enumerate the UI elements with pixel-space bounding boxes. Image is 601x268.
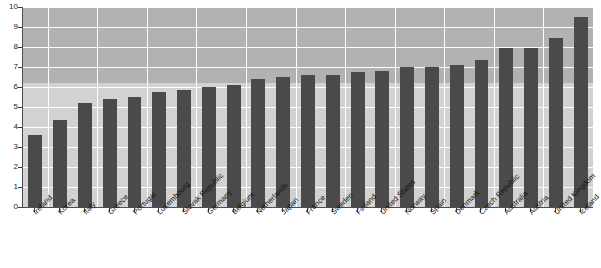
bar xyxy=(326,75,340,207)
bar xyxy=(103,99,117,207)
bar xyxy=(301,75,315,207)
x-axis-labels: IrelandKoreaItalyGreecePortugalLuxembour… xyxy=(0,210,598,268)
bar xyxy=(450,65,464,207)
y-axis-tick-label: 10 xyxy=(9,3,18,11)
bar xyxy=(549,38,563,207)
bar xyxy=(475,60,489,207)
bar xyxy=(152,92,166,207)
bar xyxy=(425,67,439,207)
bar xyxy=(128,97,142,207)
bar xyxy=(78,103,92,207)
bar xyxy=(251,79,265,207)
bar xyxy=(524,48,538,207)
bar xyxy=(28,135,42,207)
bar xyxy=(375,71,389,207)
bar xyxy=(351,72,365,207)
bar-series xyxy=(23,7,593,207)
bar xyxy=(53,120,67,207)
